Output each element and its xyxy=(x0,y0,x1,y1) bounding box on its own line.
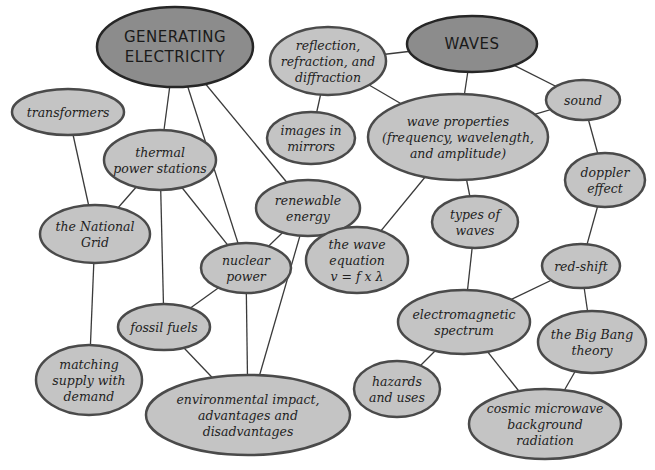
node-label: doppler xyxy=(581,165,631,180)
node-label: refraction, and xyxy=(281,54,375,69)
node-label: red-shift xyxy=(554,259,609,274)
node-label: waves xyxy=(455,223,494,238)
node-nuclear: nuclearpower xyxy=(201,243,291,293)
node-types-of-waves: types ofwaves xyxy=(432,196,518,248)
node-transformers: transformers xyxy=(12,89,124,135)
node-label: radiation xyxy=(516,433,573,448)
node-label: advantages and xyxy=(198,408,298,423)
node-label: WAVES xyxy=(444,35,499,53)
node-label: hazards xyxy=(372,374,422,389)
node-label: GENERATING xyxy=(124,28,226,46)
node-label: images in xyxy=(280,123,341,138)
node-red-shift: red-shift xyxy=(542,244,620,288)
node-label: electromagnetic xyxy=(412,307,515,322)
concept-map: GENERATINGELECTRICITYWAVESreflection,ref… xyxy=(0,0,655,470)
node-national-grid: the NationalGrid xyxy=(40,205,150,263)
node-environmental: environmental impact,advantages anddisad… xyxy=(146,375,350,455)
node-label: transformers xyxy=(27,105,110,120)
node-label: effect xyxy=(587,181,624,196)
node-label: equation xyxy=(329,253,385,268)
node-label: supply with xyxy=(52,373,125,388)
node-waves: WAVES xyxy=(407,16,537,72)
node-sound: sound xyxy=(546,80,620,120)
node-generating-electricity: GENERATINGELECTRICITY xyxy=(97,7,253,87)
node-label: diffraction xyxy=(295,70,361,85)
node-cmbr: cosmic microwavebackgroundradiation xyxy=(469,389,621,459)
node-label: power stations xyxy=(113,161,206,176)
node-label: and amplitude) xyxy=(410,146,506,161)
node-label: mirrors xyxy=(287,139,335,154)
node-doppler: dopplereffect xyxy=(565,153,645,207)
node-label: the wave xyxy=(328,237,385,252)
node-label: energy xyxy=(286,209,331,224)
node-fossil-fuels: fossil fuels xyxy=(118,304,210,350)
node-label: (frequency, wavelength, xyxy=(382,130,534,145)
node-label: renewable xyxy=(275,193,341,208)
node-label: fossil fuels xyxy=(129,320,197,335)
node-hazards: hazardsand uses xyxy=(354,361,440,417)
node-label: disadvantages xyxy=(203,424,294,439)
node-label: theory xyxy=(571,343,613,358)
node-label: types of xyxy=(450,207,502,222)
node-reflection: reflection,refraction, anddiffraction xyxy=(270,27,386,95)
node-label: v = f x λ xyxy=(330,269,383,284)
node-label: demand xyxy=(64,389,115,404)
node-thermal: thermalpower stations xyxy=(104,130,216,190)
node-big-bang: the Big Bangtheory xyxy=(538,311,646,373)
node-label: Grid xyxy=(81,235,109,250)
node-wave-equation: the waveequationv = f x λ xyxy=(306,227,408,293)
node-label: wave properties xyxy=(407,114,509,129)
node-matching-supply: matchingsupply withdemand xyxy=(36,345,142,415)
node-wave-properties: wave properties(frequency, wavelength,an… xyxy=(368,94,548,180)
node-label: the National xyxy=(56,219,135,234)
node-label: spectrum xyxy=(434,323,494,338)
node-label: cosmic microwave xyxy=(487,401,604,416)
node-em-spectrum: electromagneticspectrum xyxy=(398,290,530,354)
node-layer: GENERATINGELECTRICITYWAVESreflection,ref… xyxy=(12,7,646,459)
node-label: matching xyxy=(59,357,118,372)
node-label: reflection, xyxy=(296,38,361,53)
node-label: sound xyxy=(564,93,602,108)
node-label: thermal xyxy=(135,145,185,160)
node-label: background xyxy=(507,417,583,432)
node-label: and uses xyxy=(369,390,425,405)
node-label: nuclear xyxy=(222,253,271,268)
node-label: ELECTRICITY xyxy=(125,48,226,66)
node-label: power xyxy=(226,269,267,284)
node-label: the Big Bang xyxy=(551,327,633,342)
node-label: environmental impact, xyxy=(176,392,319,407)
node-images-in-mirrors: images inmirrors xyxy=(267,112,355,164)
